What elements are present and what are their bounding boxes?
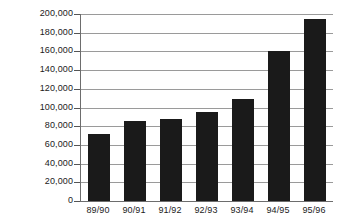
y-tick-label: 20,000 <box>0 177 73 186</box>
x-tick-label: 90/91 <box>116 205 152 215</box>
x-tick-label: 92/93 <box>188 205 224 215</box>
y-tick-label: 120,000 <box>0 84 73 93</box>
bar <box>268 51 290 201</box>
x-axis: 89/9090/9191/9292/9393/9494/9595/96 <box>80 205 332 221</box>
bar <box>88 134 110 201</box>
bar <box>232 99 254 201</box>
y-tick-label: 40,000 <box>0 159 73 168</box>
y-tick-label: 200,000 <box>0 9 73 18</box>
x-tick-label: 93/94 <box>224 205 260 215</box>
x-tick-label: 95/96 <box>296 205 332 215</box>
bar-chart: 020,00040,00060,00080,000100,000120,0001… <box>0 0 337 224</box>
y-tick-label: 0 <box>0 196 73 205</box>
bar <box>124 121 146 201</box>
bar <box>160 119 182 201</box>
bars-group <box>81 14 333 201</box>
y-tick-label: 160,000 <box>0 46 73 55</box>
plot-area <box>80 14 333 202</box>
y-tick-label: 180,000 <box>0 28 73 37</box>
y-tick-label: 140,000 <box>0 65 73 74</box>
y-tick-label: 80,000 <box>0 121 73 130</box>
y-axis: 020,00040,00060,00080,000100,000120,0001… <box>0 0 73 224</box>
x-tick-label: 94/95 <box>260 205 296 215</box>
x-tick-label: 91/92 <box>152 205 188 215</box>
y-tick-label: 100,000 <box>0 103 73 112</box>
y-tick-label: 60,000 <box>0 140 73 149</box>
x-tick-label: 89/90 <box>80 205 116 215</box>
bar <box>304 19 326 201</box>
bar <box>196 112 218 201</box>
